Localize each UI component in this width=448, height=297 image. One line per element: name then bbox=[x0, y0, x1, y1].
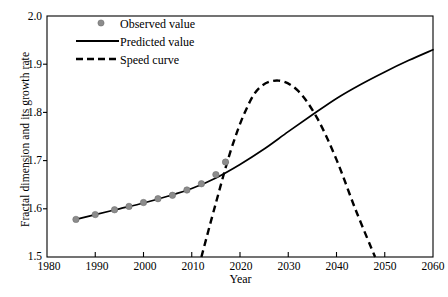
legend-marker-dot-icon bbox=[98, 20, 104, 26]
observed-value-points bbox=[73, 159, 229, 223]
x-tick-marks bbox=[95, 252, 385, 257]
observed-point bbox=[73, 216, 79, 222]
observed-point bbox=[140, 199, 146, 205]
observed-point bbox=[198, 181, 204, 187]
plot-area bbox=[0, 0, 448, 297]
plot-frame bbox=[47, 16, 433, 257]
y-tick-marks bbox=[43, 64, 47, 209]
observed-point bbox=[92, 211, 98, 217]
predicted-value-curve bbox=[76, 50, 433, 220]
observed-point bbox=[126, 203, 132, 209]
observed-point bbox=[222, 159, 228, 165]
observed-point bbox=[184, 187, 190, 193]
observed-point bbox=[111, 207, 117, 213]
observed-point bbox=[169, 192, 175, 198]
speed-curve bbox=[201, 81, 375, 257]
observed-point bbox=[155, 195, 161, 201]
observed-point bbox=[213, 171, 219, 177]
chart-figure: Fractal dimension and its growth rate 2.… bbox=[0, 0, 448, 297]
